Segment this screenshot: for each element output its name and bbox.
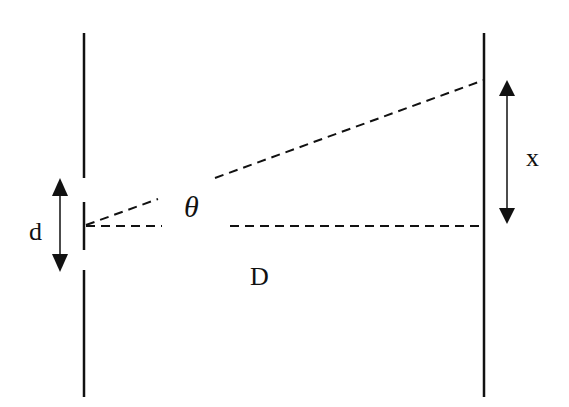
angle-label: θ bbox=[184, 192, 199, 222]
screen-distance-label: D bbox=[250, 264, 269, 290]
arrow-up-icon bbox=[499, 80, 515, 96]
arrow-down-icon bbox=[499, 208, 515, 224]
d-double-arrow bbox=[52, 178, 68, 272]
angled-ray bbox=[86, 80, 484, 225]
diagram-svg bbox=[0, 0, 569, 407]
x-double-arrow bbox=[499, 80, 515, 224]
arrow-down-icon bbox=[52, 254, 68, 272]
arrow-up-icon bbox=[52, 178, 68, 196]
angled-ray-left bbox=[86, 199, 158, 225]
slit-separation-label: d bbox=[29, 219, 42, 245]
angled-ray-right bbox=[215, 80, 484, 178]
fringe-displacement-label: x bbox=[526, 145, 539, 171]
diagram-canvas: d θ D x bbox=[0, 0, 569, 407]
